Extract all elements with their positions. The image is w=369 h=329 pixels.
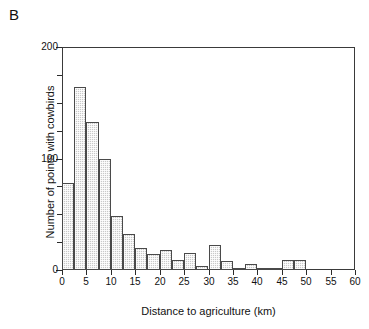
x-axis-tick [160, 270, 161, 275]
histogram-bar [172, 260, 184, 270]
x-axis-title: Distance to agriculture (km) [62, 305, 355, 317]
x-axis-tick [233, 270, 234, 275]
histogram-bar [62, 183, 74, 270]
y-axis-minor-tick [57, 214, 62, 215]
y-axis-minor-tick [57, 131, 62, 132]
y-axis-minor-tick [57, 242, 62, 243]
y-axis-title: Number of points with cowbirds [44, 50, 56, 274]
x-axis-tick-label: 20 [147, 277, 173, 287]
histogram-bar [209, 245, 221, 270]
x-axis-tick [86, 270, 87, 275]
histogram-bar [123, 234, 135, 270]
histogram-bar [294, 260, 306, 270]
histogram-bar [221, 261, 233, 270]
histogram-bar [74, 87, 86, 270]
x-axis-tick [209, 270, 210, 275]
figure-panel-b: B 0100200051015202530354045505560 Distan… [0, 0, 369, 329]
x-axis-tick-label: 0 [49, 277, 75, 287]
x-axis-tick [184, 270, 185, 275]
histogram-bar [196, 266, 208, 270]
x-axis-tick-label: 35 [220, 277, 246, 287]
histogram-bar [184, 253, 196, 270]
histogram-bar [99, 159, 111, 271]
histogram-bar [282, 260, 294, 270]
y-axis-minor-tick [57, 75, 62, 76]
histogram-bar [233, 268, 245, 270]
histogram-bar [147, 254, 159, 270]
x-axis-tick [111, 270, 112, 275]
histogram-bars [62, 47, 355, 270]
x-axis-tick-label: 50 [293, 277, 319, 287]
y-axis-minor-tick [57, 186, 62, 187]
histogram-bar [257, 268, 269, 270]
x-axis-tick-label: 40 [244, 277, 270, 287]
x-axis-tick [257, 270, 258, 275]
x-axis-tick [62, 270, 63, 275]
y-axis-minor-tick [57, 103, 62, 104]
histogram-bar [245, 264, 257, 270]
histogram-bar [270, 268, 282, 270]
x-axis-tick [306, 270, 307, 275]
x-axis-tick [355, 270, 356, 275]
x-axis-tick-label: 10 [98, 277, 124, 287]
x-axis-tick [331, 270, 332, 275]
x-axis-tick-label: 15 [122, 277, 148, 287]
histogram-bar [86, 122, 98, 270]
x-axis-tick-label: 45 [269, 277, 295, 287]
x-axis-tick-label: 55 [318, 277, 344, 287]
histogram-bar [135, 248, 147, 270]
x-axis-tick [135, 270, 136, 275]
panel-letter: B [9, 6, 19, 23]
x-axis-tick-label: 25 [171, 277, 197, 287]
x-axis-tick-label: 60 [342, 277, 368, 287]
histogram-bar [160, 250, 172, 270]
x-axis-tick-label: 5 [73, 277, 99, 287]
x-axis-tick [282, 270, 283, 275]
histogram-bar [111, 216, 123, 270]
x-axis-tick-label: 30 [196, 277, 222, 287]
